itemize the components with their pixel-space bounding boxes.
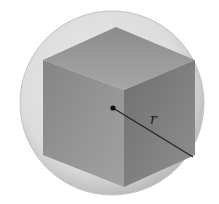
center-point — [110, 105, 115, 110]
cube-in-sphere-diagram: r — [0, 0, 219, 204]
